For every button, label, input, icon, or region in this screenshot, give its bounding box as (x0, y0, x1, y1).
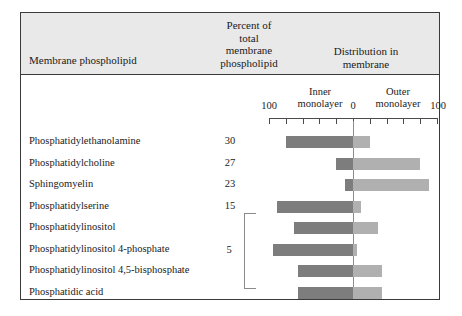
bar-inner-monolayer-2 (336, 158, 353, 170)
column-header-percent-line-1: Percent of (189, 19, 309, 32)
column-header-distribution-line-1: Distribution in (301, 45, 431, 58)
bar-inner-monolayer-1 (286, 136, 353, 148)
row-label-5: Phosphatidylinositol (29, 221, 115, 232)
legend-outer-monolayer: Outer monolayer (361, 86, 435, 109)
axis-tick-label-right: 100 (426, 100, 450, 111)
chart-row: Phosphatidic acid (21, 284, 439, 304)
bar-outer-monolayer-3 (353, 179, 429, 191)
chart-row: Sphingomyelin23 (21, 176, 439, 196)
row-percent-4: 15 (216, 200, 244, 211)
row-label-1: Phosphatidylethanolamine (29, 135, 140, 146)
bar-inner-monolayer-4 (277, 201, 353, 213)
row-label-8: Phosphatidic acid (29, 286, 103, 297)
column-header-distribution-line-2: membrane (301, 58, 431, 71)
legend-outer-line-2: monolayer (361, 98, 435, 110)
bar-outer-monolayer-8 (353, 287, 382, 299)
column-header-percent-line-2: total (189, 32, 309, 45)
column-header-phospholipid: Membrane phospholipid (29, 54, 209, 67)
row-label-2: Phosphatidylcholine (29, 157, 115, 168)
bar-outer-monolayer-6 (353, 244, 357, 256)
chart-row: Phosphatidylinositol 4,5-bisphosphate (21, 262, 439, 282)
row-label-7: Phosphatidylinositol 4,5-bisphosphate (29, 264, 189, 275)
row-percent-1: 30 (216, 135, 244, 146)
legend-inner-line-1: Inner (283, 86, 357, 98)
row-label-4: Phosphatidylserine (29, 200, 109, 211)
figure-panel: Membrane phospholipid Percent of total m… (20, 12, 440, 300)
bar-inner-monolayer-5 (294, 222, 353, 234)
axis-header: Inner monolayer Outer monolayer 100 0 10… (21, 75, 439, 121)
bar-outer-monolayer-1 (353, 136, 370, 148)
chart-row: Phosphatidylinositol (21, 219, 439, 239)
bar-inner-monolayer-7 (298, 265, 353, 277)
bar-inner-monolayer-6 (273, 244, 353, 256)
chart-row: Phosphatidylcholine27 (21, 155, 439, 175)
row-percent-2: 27 (216, 157, 244, 168)
legend-outer-line-1: Outer (361, 86, 435, 98)
chart-row: Phosphatidylserine15 (21, 198, 439, 218)
column-header-percent: Percent of total membrane phospholipid (189, 19, 309, 69)
bar-outer-monolayer-4 (353, 201, 361, 213)
row-label-6: Phosphatidylinositol 4-phosphate (29, 243, 169, 254)
column-header-percent-line-3: membrane (189, 44, 309, 57)
column-header-percent-line-4: phospholipid (189, 57, 309, 70)
row-percent-3: 23 (216, 178, 244, 189)
axis-tick-label-zero: 0 (341, 100, 365, 111)
chart-plot-area: Phosphatidylethanolamine30Phosphatidylch… (21, 121, 439, 299)
group-bracket (244, 213, 256, 289)
bar-outer-monolayer-5 (353, 222, 378, 234)
column-header-distribution: Distribution in membrane (301, 45, 431, 70)
group-percent-value: 5 (217, 244, 241, 255)
bar-inner-monolayer-8 (298, 287, 353, 299)
table-header-band: Membrane phospholipid Percent of total m… (21, 13, 439, 75)
row-label-3: Sphingomyelin (29, 178, 93, 189)
axis-tick-label-left: 100 (257, 100, 281, 111)
chart-row: Phosphatidylethanolamine30 (21, 133, 439, 153)
bar-inner-monolayer-3 (345, 179, 353, 191)
bar-outer-monolayer-2 (353, 158, 420, 170)
bar-outer-monolayer-7 (353, 265, 382, 277)
